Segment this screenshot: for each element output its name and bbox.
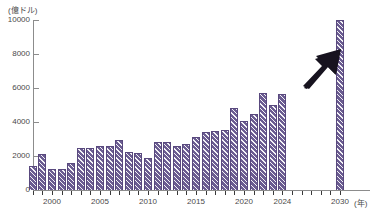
x-tick bbox=[282, 191, 283, 195]
x-tick bbox=[42, 191, 43, 195]
x-tick-label: 2030 bbox=[331, 197, 349, 206]
x-axis-line bbox=[33, 190, 370, 191]
y-tick-label: 8000 bbox=[0, 49, 30, 58]
bar bbox=[182, 144, 190, 190]
x-tick bbox=[52, 191, 53, 195]
x-tick bbox=[206, 191, 207, 195]
x-tick bbox=[273, 191, 274, 195]
bar bbox=[86, 148, 94, 191]
x-tick bbox=[62, 191, 63, 195]
x-axis-unit-label: (年) bbox=[354, 197, 367, 208]
bar bbox=[48, 169, 56, 190]
bar bbox=[77, 148, 85, 190]
x-tick-label: 2010 bbox=[139, 197, 157, 206]
x-tick bbox=[215, 191, 216, 195]
x-tick bbox=[90, 191, 91, 195]
x-tick bbox=[119, 191, 120, 195]
x-tick-label: 2015 bbox=[187, 197, 205, 206]
x-tick bbox=[292, 191, 293, 195]
bar bbox=[192, 137, 200, 190]
bar bbox=[163, 142, 171, 190]
x-tick-label: 2020 bbox=[235, 197, 253, 206]
bar bbox=[230, 108, 238, 190]
bar-chart: (億ドル) 0200040006000800010000 20002005201… bbox=[0, 0, 377, 218]
x-tick bbox=[81, 191, 82, 195]
x-tick bbox=[129, 191, 130, 195]
bar bbox=[278, 94, 286, 190]
x-tick bbox=[234, 191, 235, 195]
x-tick bbox=[330, 191, 331, 195]
bar bbox=[250, 114, 258, 191]
x-tick bbox=[148, 191, 149, 195]
x-tick-label: 2024 bbox=[273, 197, 291, 206]
y-tick-label: 10000 bbox=[0, 15, 30, 24]
y-tick bbox=[34, 88, 39, 89]
y-tick bbox=[34, 190, 39, 191]
y-tick-label: 4000 bbox=[0, 117, 30, 126]
x-tick bbox=[254, 191, 255, 195]
bar bbox=[259, 93, 267, 190]
y-tick bbox=[34, 54, 39, 55]
bar bbox=[154, 142, 162, 190]
bar bbox=[29, 166, 37, 190]
bar bbox=[173, 146, 181, 190]
x-tick bbox=[302, 191, 303, 195]
y-tick-label: 0 bbox=[0, 185, 30, 194]
x-tick bbox=[138, 191, 139, 195]
bar bbox=[221, 130, 229, 190]
x-tick bbox=[33, 191, 34, 195]
y-tick bbox=[34, 122, 39, 123]
x-tick bbox=[71, 191, 72, 195]
y-tick-label: 2000 bbox=[0, 151, 30, 160]
x-tick bbox=[186, 191, 187, 195]
x-tick bbox=[196, 191, 197, 195]
x-tick bbox=[225, 191, 226, 195]
x-tick-label: 2000 bbox=[43, 197, 61, 206]
bar bbox=[211, 131, 219, 191]
bar bbox=[269, 105, 277, 190]
y-tick-label: 6000 bbox=[0, 83, 30, 92]
bar bbox=[58, 169, 66, 190]
x-tick bbox=[158, 191, 159, 195]
bar bbox=[115, 140, 123, 190]
x-tick bbox=[263, 191, 264, 195]
up-right-arrow-icon bbox=[300, 38, 346, 90]
y-axis-unit-label: (億ドル) bbox=[8, 4, 37, 15]
bar bbox=[67, 163, 75, 190]
x-tick bbox=[167, 191, 168, 195]
x-tick-label: 2005 bbox=[91, 197, 109, 206]
bar bbox=[240, 121, 248, 190]
bar bbox=[38, 154, 46, 190]
y-tick bbox=[34, 20, 39, 21]
x-tick bbox=[244, 191, 245, 195]
bar bbox=[106, 146, 114, 190]
bar bbox=[125, 152, 133, 190]
x-tick bbox=[321, 191, 322, 195]
x-tick bbox=[177, 191, 178, 195]
bar bbox=[202, 132, 210, 190]
bar bbox=[144, 158, 152, 190]
x-tick bbox=[110, 191, 111, 195]
bar bbox=[134, 153, 142, 190]
x-tick bbox=[311, 191, 312, 195]
bar bbox=[96, 146, 104, 190]
x-tick bbox=[340, 191, 341, 195]
x-tick bbox=[100, 191, 101, 195]
